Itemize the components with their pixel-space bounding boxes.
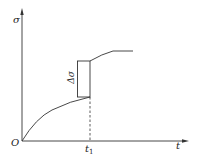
y-axis-label: σ (13, 15, 20, 25)
y-axis-arrow-icon (20, 8, 23, 15)
stress-jump-rect (78, 61, 91, 97)
x-axis-label: t (176, 141, 180, 151)
origin-label: O (11, 138, 19, 148)
delta-sigma-label: Δσ (67, 71, 76, 84)
t1-label: t1 (85, 144, 94, 156)
upper-curve (90, 51, 133, 61)
t1-label-subscript: 1 (89, 148, 93, 156)
lower-curve (22, 97, 90, 141)
stress-time-diagram (0, 0, 199, 165)
x-axis-arrow-icon (182, 139, 189, 142)
